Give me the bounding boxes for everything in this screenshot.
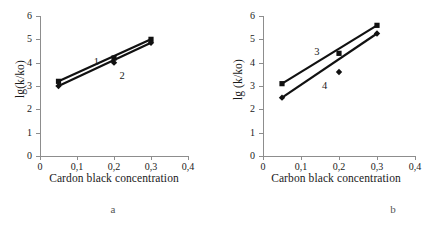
x-tick-label-0-1: 0,1 — [65, 162, 89, 172]
panel-b: lg (k/ko) 012345600,10,20,30,434 Carbon … — [220, 0, 440, 228]
x-tick-label-0-2: 0,2 — [102, 162, 126, 172]
x-tick-label-0-3: 0,3 — [139, 162, 163, 172]
y-tick-0-5 — [36, 39, 40, 40]
plot-area-b: 012345600,10,20,30,434 — [263, 16, 415, 156]
x-axis-label-a: Cardon black concentration — [14, 172, 214, 184]
x-tick-label-1-0: 0 — [251, 162, 275, 172]
plot-area-a: 012345600,10,20,30,412 — [40, 16, 188, 156]
y-tick-1-3 — [259, 86, 263, 87]
y-tick-label-0-1: 1 — [20, 128, 32, 138]
x-tick-0-4 — [188, 156, 189, 160]
panel-caption-a: a — [98, 203, 128, 215]
y-tick-label-1-5: 5 — [243, 34, 255, 44]
y-tick-label-0-6: 6 — [20, 11, 32, 21]
x-tick-1-4 — [415, 156, 416, 160]
trend-line-3 — [282, 25, 377, 83]
x-tick-0-2 — [114, 156, 115, 160]
x-tick-label-0-0: 0 — [28, 162, 52, 172]
trend-line-4 — [282, 34, 377, 98]
x-tick-label-1-1: 0,1 — [289, 162, 313, 172]
x-tick-0-0 — [40, 156, 41, 160]
y-tick-0-6 — [36, 16, 40, 17]
panel-caption-b: b — [378, 203, 408, 215]
series-label-1: 1 — [94, 57, 99, 68]
data-layer-a — [40, 16, 188, 156]
y-tick-label-0-5: 5 — [20, 34, 32, 44]
x-tick-label-1-3: 0,3 — [365, 162, 389, 172]
x-tick-1-1 — [301, 156, 302, 160]
x-tick-label-1-4: 0,4 — [403, 162, 427, 172]
data-point-3-0 — [279, 81, 284, 86]
y-tick-0-1 — [36, 133, 40, 134]
trend-line-2 — [59, 43, 152, 86]
x-axis-label-b: Carbon black concentration — [234, 172, 438, 184]
y-tick-label-0-2: 2 — [20, 104, 32, 114]
data-point-4-1 — [336, 69, 342, 75]
data-layer-b — [263, 16, 415, 156]
y-tick-1-5 — [259, 39, 263, 40]
series-label-2: 2 — [120, 71, 125, 82]
y-tick-0-3 — [36, 86, 40, 87]
x-tick-1-3 — [377, 156, 378, 160]
x-tick-1-2 — [339, 156, 340, 160]
panel-a: lg(k/ko) 012345600,10,20,30,412 Cardon b… — [0, 0, 220, 228]
x-tick-0-3 — [151, 156, 152, 160]
x-tick-label-0-4: 0,4 — [176, 162, 200, 172]
figure-two-panel-plots: lg(k/ko) 012345600,10,20,30,412 Cardon b… — [0, 0, 440, 228]
series-label-3: 3 — [314, 47, 319, 58]
y-tick-1-1 — [259, 133, 263, 134]
y-tick-label-1-2: 2 — [243, 104, 255, 114]
x-tick-0-1 — [77, 156, 78, 160]
data-point-3-2 — [374, 23, 379, 28]
y-tick-label-0-3: 3 — [20, 81, 32, 91]
y-tick-1-6 — [259, 16, 263, 17]
y-tick-label-0-4: 4 — [20, 58, 32, 68]
y-tick-1-4 — [259, 63, 263, 64]
y-tick-label-1-6: 6 — [243, 11, 255, 21]
data-point-3-1 — [336, 51, 341, 56]
series-label-4: 4 — [322, 81, 327, 92]
x-tick-1-0 — [263, 156, 264, 160]
y-tick-1-2 — [259, 109, 263, 110]
y-tick-0-2 — [36, 109, 40, 110]
trend-line-1 — [59, 39, 152, 81]
y-tick-label-1-4: 4 — [243, 58, 255, 68]
y-tick-0-4 — [36, 63, 40, 64]
y-tick-label-1-0: 0 — [243, 151, 255, 161]
y-tick-label-1-3: 3 — [243, 81, 255, 91]
y-tick-label-1-1: 1 — [243, 128, 255, 138]
y-tick-label-0-0: 0 — [20, 151, 32, 161]
x-tick-label-1-2: 0,2 — [327, 162, 351, 172]
